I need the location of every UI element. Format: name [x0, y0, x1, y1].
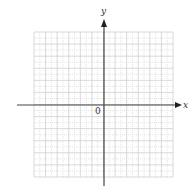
origin-label: 0 [95, 106, 101, 116]
x-axis-arrow-icon [175, 102, 182, 108]
x-axis-label: x [183, 100, 188, 110]
y-axis-arrow-icon [101, 19, 107, 27]
coordinate-plane: y x 0 [0, 0, 193, 193]
y-axis-label: y [100, 6, 107, 16]
